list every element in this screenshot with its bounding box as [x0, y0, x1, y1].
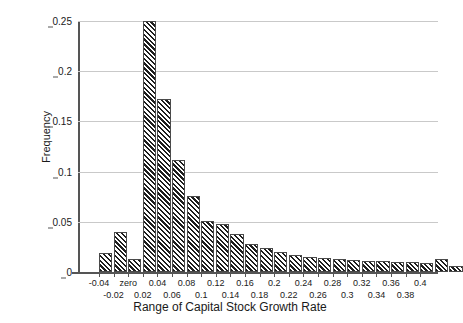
y-tick-label: 0 — [66, 267, 78, 278]
x-tick-label: 0.4 — [414, 278, 427, 288]
x-tick-label: 0.12 — [207, 278, 225, 288]
x-tick-label: -0.04 — [89, 278, 110, 288]
x-tick-label: 0.08 — [178, 278, 196, 288]
x-tick-label: 0.32 — [353, 278, 371, 288]
x-tick-mark — [172, 272, 173, 277]
x-tick-mark — [230, 272, 231, 277]
x-tick-label: 0.1 — [195, 290, 208, 300]
x-tick-label: -0.02 — [103, 290, 124, 300]
histogram-bar — [274, 252, 287, 272]
histogram-bar — [347, 260, 360, 272]
x-tick-mark — [187, 272, 188, 277]
histogram-bar — [420, 263, 433, 272]
x-tick-mark — [376, 272, 377, 277]
x-tick-mark — [260, 272, 261, 277]
x-axis-title: Range of Capital Stock Growth Rate — [0, 300, 460, 314]
x-tick-mark — [347, 272, 348, 277]
histogram-bar — [435, 259, 448, 272]
x-tick-mark — [216, 272, 217, 277]
y-tick-mark — [53, 77, 58, 78]
histogram-bar — [289, 255, 302, 272]
x-tick-mark — [245, 272, 246, 277]
x-tick-mark — [289, 272, 290, 277]
x-tick-label: 0.04 — [149, 278, 167, 288]
histogram-bar — [362, 261, 375, 272]
x-tick-label: zero — [119, 278, 137, 288]
y-tick-mark — [48, 227, 53, 228]
x-tick-label: 0.14 — [222, 290, 240, 300]
histogram-bar — [406, 262, 419, 272]
x-tick-mark — [303, 272, 304, 277]
x-tick-mark — [406, 272, 407, 277]
y-tick-label: 0.1 — [58, 166, 78, 177]
y-tick-mark — [53, 177, 58, 178]
histogram-bar — [303, 257, 316, 272]
histogram-bar — [376, 261, 389, 272]
x-tick-label: 0.18 — [251, 290, 269, 300]
x-tick-label: 0.36 — [382, 278, 400, 288]
x-tick-mark — [201, 272, 202, 277]
y-axis-label: Frequency — [40, 111, 52, 163]
y-tick-label: 0.25 — [53, 16, 78, 27]
histogram-bar — [216, 224, 229, 272]
histogram-bar — [201, 221, 214, 272]
x-tick-mark — [391, 272, 392, 277]
x-tick-mark — [114, 272, 115, 277]
x-tick-mark — [99, 272, 100, 277]
histogram-bar — [230, 234, 243, 272]
histogram-bar — [260, 248, 273, 272]
x-tick-mark — [362, 272, 363, 277]
x-tick-label: 0.34 — [368, 290, 386, 300]
y-tick-mark — [48, 27, 53, 28]
histogram-bar — [391, 262, 404, 272]
y-tick-mark — [61, 278, 66, 279]
histogram-bar — [157, 99, 170, 272]
histogram-bar — [143, 21, 156, 272]
histogram-bar — [99, 253, 112, 272]
y-tick-mark — [48, 127, 53, 128]
x-tick-labels: -0.04-0.02zero0.020.040.060.080.10.120.1… — [78, 272, 438, 322]
x-tick-label: 0.26 — [309, 290, 327, 300]
x-tick-mark — [157, 272, 158, 277]
x-tick-mark — [143, 272, 144, 277]
x-tick-label: 0.3 — [341, 290, 354, 300]
x-tick-mark — [318, 272, 319, 277]
x-tick-label: 0.16 — [236, 278, 254, 288]
y-tick-label: 0.05 — [53, 216, 78, 227]
histogram-bar — [114, 232, 127, 272]
bar-series — [78, 21, 438, 272]
x-tick-mark — [420, 272, 421, 277]
histogram-bar — [172, 160, 185, 272]
histogram-bar — [245, 244, 258, 272]
y-tick-label: 0.2 — [58, 66, 78, 77]
y-axis-label-wrapper: Frequency — [14, 0, 30, 273]
x-tick-mark — [128, 272, 129, 277]
x-tick-mark — [333, 272, 334, 277]
x-tick-mark — [274, 272, 275, 277]
plot-area: 00.050.10.150.20.25 — [78, 21, 438, 272]
x-tick-label: 0.22 — [280, 290, 298, 300]
x-tick-label: 0.02 — [134, 290, 152, 300]
x-tick-label: 0.28 — [324, 278, 342, 288]
x-tick-label: 0.06 — [163, 290, 181, 300]
histogram-bar — [333, 259, 346, 272]
x-tick-label: 0.2 — [268, 278, 281, 288]
x-tick-label: 0.24 — [295, 278, 313, 288]
histogram-bar — [187, 196, 200, 272]
histogram-bar — [318, 258, 331, 272]
histogram-bar — [449, 266, 462, 272]
histogram-bar — [128, 259, 141, 272]
y-tick-label: 0.15 — [53, 116, 78, 127]
x-tick-label: 0.38 — [397, 290, 415, 300]
